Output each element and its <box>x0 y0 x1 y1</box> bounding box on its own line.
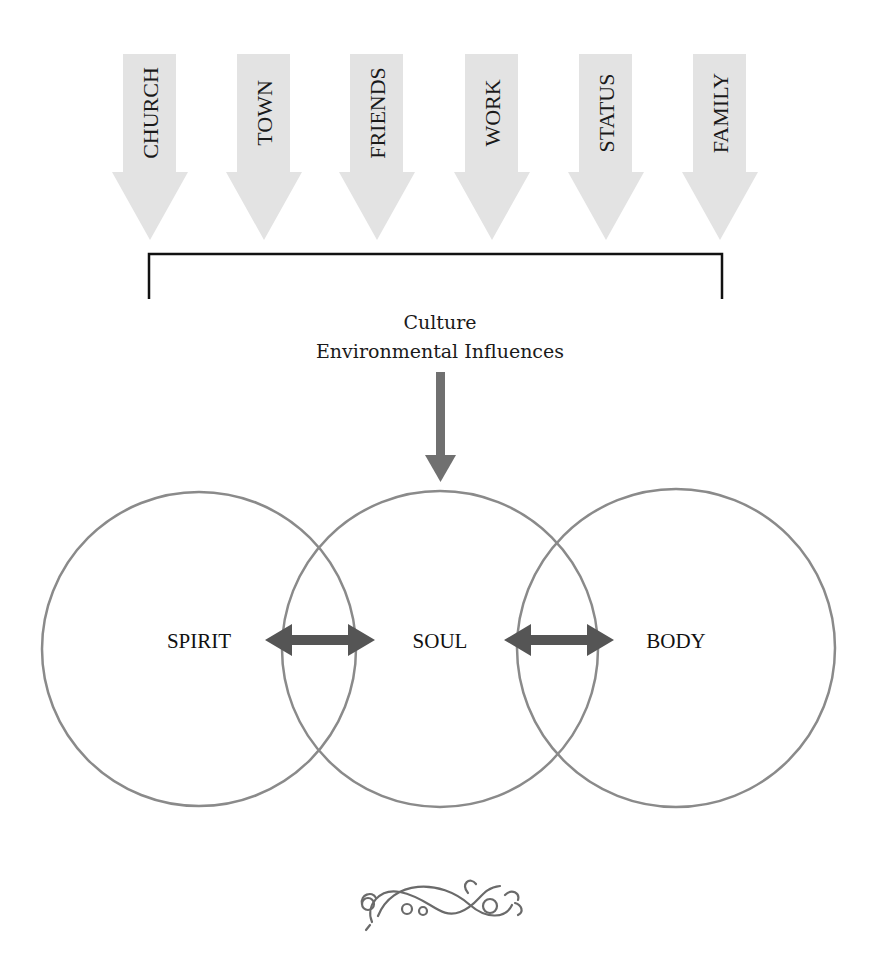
diagram-canvas: CHURCH TOWN FRIENDS WORK STATUS FAMILY C… <box>0 0 882 980</box>
influence-label: WORK <box>480 79 505 146</box>
label-soul: SOUL <box>413 629 468 653</box>
influence-label: STATUS <box>594 74 619 153</box>
influence-label: FAMILY <box>708 73 733 154</box>
influence-arrow-friends: FRIENDS <box>339 54 415 240</box>
flourish-ornament-icon <box>362 881 522 930</box>
diagram: CHURCH TOWN FRIENDS WORK STATUS FAMILY C… <box>0 0 882 980</box>
label-body: BODY <box>646 629 706 653</box>
label-spirit: SPIRIT <box>167 629 231 653</box>
influence-label: CHURCH <box>138 67 163 159</box>
influence-arrow-work: WORK <box>454 54 530 240</box>
influence-down-arrow-icon <box>425 372 456 482</box>
grouping-bracket <box>149 254 722 299</box>
influence-label: FRIENDS <box>365 67 390 159</box>
influence-arrow-town: TOWN <box>226 54 302 240</box>
caption-culture: Culture <box>403 311 476 333</box>
influence-arrow-family: FAMILY <box>682 54 758 240</box>
influence-arrow-church: CHURCH <box>112 54 188 240</box>
influence-arrows: CHURCH TOWN FRIENDS WORK STATUS FAMILY <box>112 54 758 240</box>
influence-label: TOWN <box>252 80 277 146</box>
influence-arrow-status: STATUS <box>568 54 644 240</box>
caption-environmental-influences: Environmental Influences <box>316 340 564 362</box>
